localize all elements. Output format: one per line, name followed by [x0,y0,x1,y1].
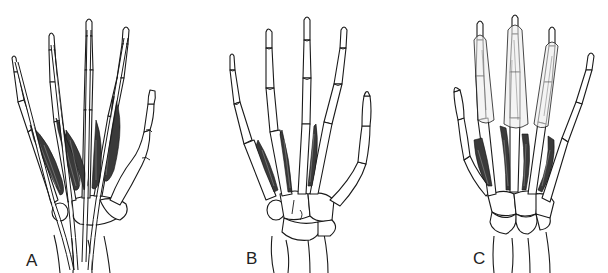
panel-label-a: A [26,252,37,269]
panel-b: B [200,0,410,273]
panel-label-b: B [246,250,257,267]
hand-illustration-dorsal-interossei [410,0,608,273]
panel-label-c: C [473,250,485,267]
panel-a: A [0,0,200,273]
hand-illustration-palmar-interossei [200,0,410,273]
hand-illustration-lumbricals [0,0,200,273]
panel-c: C [410,0,608,273]
hand-anatomy-figure: A [0,0,608,273]
